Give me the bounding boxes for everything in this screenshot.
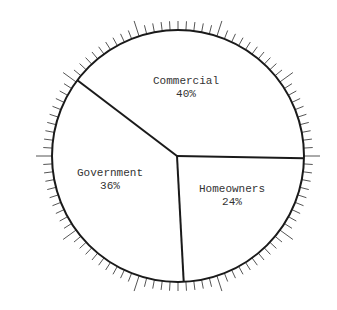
tick-mark [60, 217, 68, 221]
tick-mark [258, 52, 264, 59]
tick-mark [258, 253, 264, 260]
tick-mark [153, 23, 155, 32]
tick-mark [52, 202, 60, 205]
tick-mark [284, 84, 292, 89]
tick-mark [161, 281, 162, 290]
tick-mark [43, 164, 52, 165]
tick-mark [45, 180, 54, 182]
tick-mark [170, 21, 171, 30]
tick-mark [47, 187, 56, 189]
tick-mark [92, 52, 98, 59]
tick-mark [288, 91, 296, 95]
tick-mark [121, 270, 125, 278]
tick-mark [194, 22, 195, 31]
tick-mark [86, 58, 92, 65]
tick-mark [60, 91, 68, 95]
tick-mark [280, 73, 293, 82]
tick-mark [270, 64, 277, 70]
tick-mark [161, 22, 162, 31]
tick-mark [144, 278, 146, 287]
tick-mark [50, 114, 59, 117]
tick-mark [239, 38, 243, 46]
slice-name: Government [77, 167, 143, 180]
tick-mark [303, 139, 312, 140]
tick-mark [292, 210, 300, 214]
tick-mark [304, 164, 313, 165]
tick-mark [74, 236, 81, 242]
tick-mark [134, 276, 139, 291]
tick-mark [202, 280, 204, 289]
tick-mark [80, 64, 87, 70]
tick-mark [128, 273, 131, 281]
tick-mark [246, 262, 251, 270]
tick-mark [64, 224, 72, 229]
tick-mark [264, 58, 270, 65]
tick-mark [302, 131, 311, 133]
tick-mark [113, 266, 117, 274]
tick-mark [106, 262, 111, 270]
tick-mark [44, 172, 53, 173]
tick-mark [106, 42, 111, 50]
tick-mark [302, 180, 311, 182]
tick-mark [80, 242, 87, 248]
tick-mark [239, 266, 243, 274]
tick-mark [74, 70, 81, 76]
tick-mark [303, 172, 312, 173]
tick-mark [121, 34, 125, 42]
tick-mark [264, 248, 270, 255]
tick-mark [280, 230, 293, 239]
tick-mark [275, 236, 282, 242]
tick-mark [284, 224, 292, 229]
tick-mark [246, 42, 251, 50]
slice-label-commercial: Commercial 40% [153, 75, 219, 101]
tick-mark [217, 21, 222, 36]
tick-mark [194, 281, 195, 290]
tick-mark [186, 21, 187, 30]
slice-name: Homeowners [199, 183, 265, 196]
tick-mark [43, 148, 52, 149]
tick-mark [300, 187, 309, 189]
tick-mark [202, 23, 204, 32]
tick-mark [44, 139, 53, 140]
tick-mark [63, 73, 76, 82]
tick-mark [144, 25, 146, 34]
tick-mark [224, 30, 227, 38]
tick-mark [252, 258, 257, 265]
tick-mark [128, 30, 131, 38]
tick-mark [56, 99, 64, 103]
tick-mark [186, 282, 187, 291]
tick-mark [99, 47, 104, 54]
tick-mark [56, 210, 64, 214]
tick-mark [295, 202, 303, 205]
tick-mark [209, 278, 211, 287]
slice-label-homeowners: Homeowners 24% [199, 183, 265, 209]
tick-mark [113, 38, 117, 46]
tick-mark [252, 47, 257, 54]
pie-chart [0, 0, 337, 310]
tick-mark [45, 131, 54, 133]
slice-percent: 40% [153, 88, 219, 101]
tick-mark [298, 195, 307, 198]
tick-mark [63, 230, 76, 239]
slice-label-government: Government 36% [77, 167, 143, 193]
tick-mark [217, 276, 222, 291]
tick-mark [232, 270, 236, 278]
tick-mark [64, 84, 72, 89]
tick-mark [270, 242, 277, 248]
tick-mark [99, 258, 104, 265]
tick-mark [275, 70, 282, 76]
tick-mark [134, 21, 139, 36]
tick-mark [170, 282, 171, 291]
tick-mark [298, 114, 307, 117]
tick-mark [288, 217, 296, 221]
tick-mark [304, 148, 313, 149]
slice-percent: 24% [199, 196, 265, 209]
tick-mark [92, 253, 98, 260]
tick-mark [47, 122, 56, 124]
tick-mark [300, 122, 309, 124]
tick-mark [209, 25, 211, 34]
tick-mark [224, 273, 227, 281]
tick-mark [52, 106, 60, 109]
tick-mark [295, 106, 303, 109]
slice-name: Commercial [153, 75, 219, 88]
